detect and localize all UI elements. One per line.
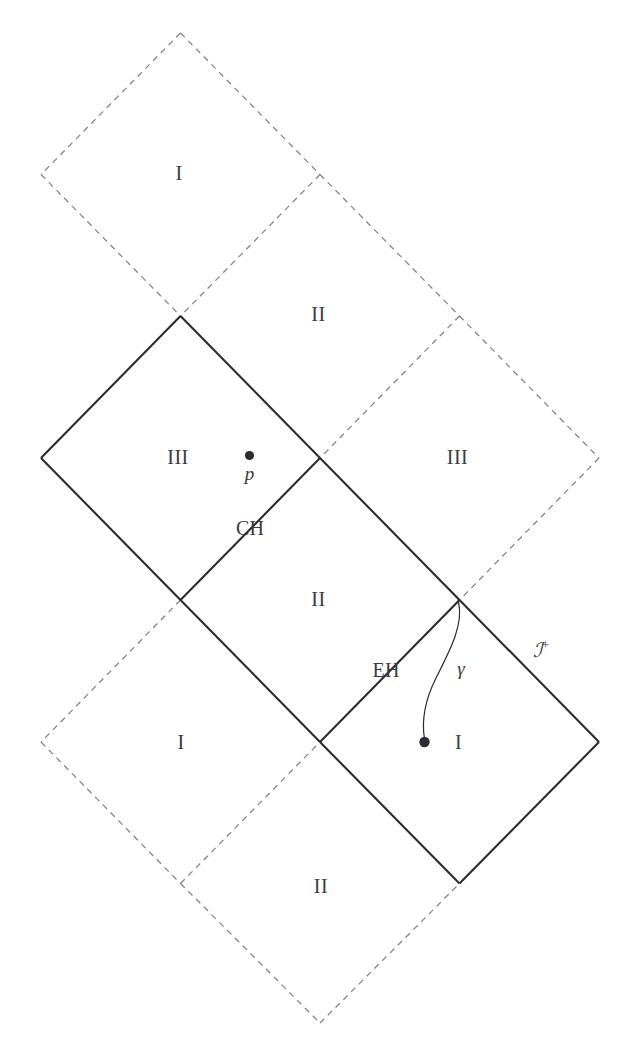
point-p-dot xyxy=(245,451,254,460)
top-ii-upper-right xyxy=(320,175,460,317)
gamma-endpoint-dot xyxy=(419,737,429,747)
right-iii-upper-right xyxy=(460,316,600,458)
bottom-ii-lower-right xyxy=(320,884,460,1024)
gamma-geodesic-path xyxy=(423,602,459,739)
bottom-ii-lower-left xyxy=(181,884,321,1024)
penrose-diagram-canvas xyxy=(0,0,635,1059)
left-i-lower-right xyxy=(181,742,321,884)
left-i-upper-left xyxy=(41,600,181,742)
ch-right-upper xyxy=(181,316,321,458)
top-i-lower-left xyxy=(41,175,181,317)
solid-edge-group xyxy=(41,316,599,884)
region-i-lower-right xyxy=(460,742,600,884)
left-i-lower-left xyxy=(41,742,181,884)
penrose-diagram-figure: IIIIIIIIIIIIIIICHEHℐ+pγ xyxy=(0,0,635,1059)
top-i-lower-right xyxy=(181,175,321,317)
iii-left-lower-left xyxy=(41,458,181,600)
event-horizon-EH xyxy=(320,600,460,742)
ch-left-upper xyxy=(41,316,181,458)
top-i-upper-left xyxy=(41,33,181,175)
scri-plus-edge xyxy=(460,600,600,742)
top-ii-lower-right xyxy=(320,316,460,458)
cauchy-horizon-CH xyxy=(181,458,321,600)
top-i-upper-right xyxy=(181,33,321,175)
region-i-lower-left xyxy=(320,742,460,884)
point-marker-group xyxy=(245,451,430,747)
geodesic-gamma-curve xyxy=(423,602,459,739)
ii-lower-left xyxy=(181,600,321,742)
dashed-edge-group xyxy=(41,33,599,1023)
ii-right-upper xyxy=(320,458,460,600)
right-iii-lower-right xyxy=(460,458,600,600)
